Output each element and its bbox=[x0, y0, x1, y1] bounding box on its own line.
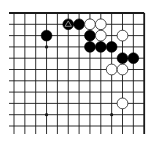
black-stone bbox=[85, 42, 96, 53]
white-stone bbox=[106, 64, 117, 75]
star-point bbox=[45, 45, 48, 48]
black-stone bbox=[128, 53, 139, 64]
black-stone bbox=[106, 42, 117, 53]
black-stone bbox=[74, 19, 85, 30]
go-board bbox=[0, 0, 155, 146]
white-stone bbox=[117, 64, 128, 75]
black-stone bbox=[41, 30, 52, 41]
white-stone bbox=[95, 30, 106, 41]
white-stone bbox=[117, 98, 128, 109]
black-stone bbox=[117, 53, 128, 64]
white-stone bbox=[117, 30, 128, 41]
black-stone bbox=[85, 30, 96, 41]
black-stone bbox=[95, 42, 106, 53]
white-stone bbox=[95, 19, 106, 30]
white-stone bbox=[85, 19, 96, 30]
go-board-diagram bbox=[0, 0, 155, 146]
star-point bbox=[45, 113, 48, 116]
star-point bbox=[110, 113, 113, 116]
